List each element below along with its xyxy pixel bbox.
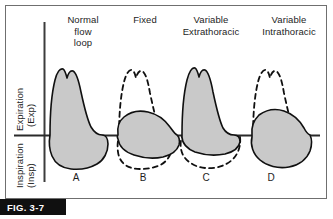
figure-caption-label: FIG. 3-7 <box>7 202 44 213</box>
column-title-line1: Variable <box>168 14 254 26</box>
panel-label-a: A <box>66 172 86 183</box>
panel-a-normal-flow-loop <box>49 69 108 169</box>
panel-d-variable-intrathoracic <box>251 70 311 168</box>
y-axis-label-inspiration-abbrev: (Insp) <box>25 163 36 188</box>
column-title-line1: Variable <box>248 14 330 26</box>
column-title-normal-flow-loop: Normal flow loop <box>47 14 119 49</box>
figure-container: Normal flow loop Fixed Variable Extratho… <box>0 0 333 219</box>
panel-a-loop-shape <box>49 69 108 169</box>
panel-label-d: D <box>261 172 281 183</box>
panel-c-loop-shape <box>182 68 240 155</box>
panel-label-c: C <box>196 172 216 183</box>
column-title-variable-intrathoracic: Variable Intrathoracic <box>248 14 330 37</box>
y-axis-label-expiration: Expiration <box>14 88 25 131</box>
panel-b-loop-shape <box>117 111 179 158</box>
panel-c-variable-extrathoracic <box>181 68 241 168</box>
panel-b-fixed-obstruction <box>117 70 179 169</box>
column-title-line2: Extrathoracic <box>168 26 254 38</box>
column-title-variable-extrathoracic: Variable Extrathoracic <box>168 14 254 37</box>
y-axis-label-inspiration: Inspiration <box>14 143 25 188</box>
column-title-line1: Normal <box>47 14 119 26</box>
column-title-line3: loop <box>47 37 119 49</box>
panel-d-loop-shape <box>251 110 311 168</box>
panel-label-b: B <box>133 172 153 183</box>
y-axis-label-expiration-abbrev: (Exp) <box>25 104 36 127</box>
column-title-line2: flow <box>47 26 119 38</box>
column-title-line2: Intrathoracic <box>248 26 330 38</box>
